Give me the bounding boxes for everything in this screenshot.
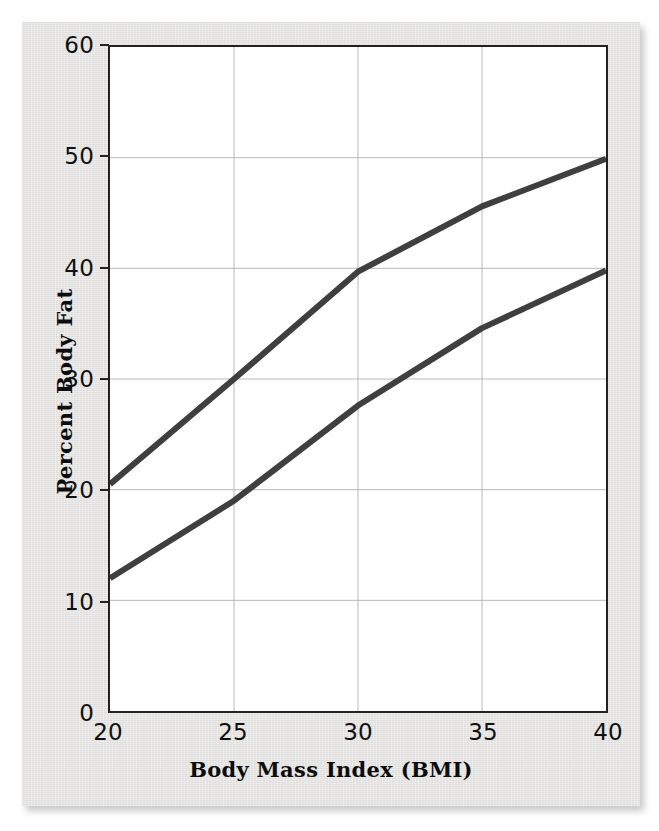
y-tick-mark-60 [100, 44, 109, 46]
x-tick-label-30: 30 [343, 719, 373, 745]
x-tick-label-25: 25 [218, 719, 248, 745]
y-tick-mark-30 [100, 378, 109, 380]
y-tick-mark-10 [100, 601, 109, 603]
x-tick-label-20: 20 [93, 719, 123, 745]
y-tick-label-50: 50 [64, 143, 94, 169]
y-tick-label-10: 10 [64, 589, 94, 615]
y-tick-mark-50 [100, 155, 109, 157]
x-axis-title: Body Mass Index (BMI) [22, 757, 640, 782]
x-tick-label-35: 35 [468, 719, 498, 745]
series-layer [110, 47, 606, 711]
plot-area [108, 45, 608, 713]
y-tick-mark-40 [100, 267, 109, 269]
x-tick-label-40: 40 [593, 719, 623, 745]
y-tick-label-60: 60 [64, 32, 94, 58]
series-line-upper-curve [110, 159, 606, 484]
figure-card: 60 50 40 30 20 10 0 20 25 30 35 40 Body … [22, 22, 640, 806]
y-axis-title: Percent Body Fat [52, 242, 77, 542]
y-tick-mark-20 [100, 489, 109, 491]
y-tick-label-0: 0 [79, 700, 94, 726]
